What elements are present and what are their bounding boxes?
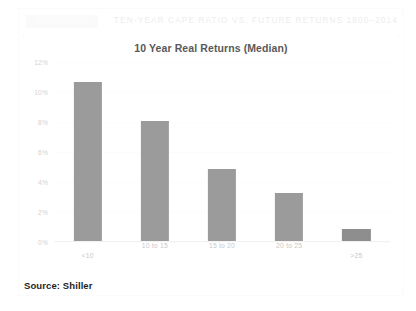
x-axis-baseline (54, 241, 390, 242)
chart-card: 10 Year Real Returns (Median) 0%2%4%6%8%… (24, 36, 398, 268)
brand-logo: BUSINESS (26, 15, 98, 28)
y-axis-tick-label: 10% (34, 89, 48, 96)
y-axis-tick-label: 12% (34, 59, 48, 66)
bar-slot: 15 to 20 (188, 62, 255, 242)
x-axis-tick-label: 15 to 20 (209, 242, 235, 249)
y-axis-tick-label: 2% (38, 209, 48, 216)
y-axis-tick-label: 6% (38, 149, 48, 156)
x-axis-tick-label: >25 (350, 252, 362, 259)
bar-slot: 10 to 15 (121, 62, 188, 242)
plot-area: 0%2%4%6%8%10%12% <1010 to 1515 to 2020 t… (54, 62, 390, 242)
y-axis-tick-label: 8% (38, 119, 48, 126)
y-axis-tick-label: 4% (38, 179, 48, 186)
bar-slot: 20 to 25 (256, 62, 323, 242)
bar (208, 169, 236, 243)
bar-slot: <10 (54, 62, 121, 242)
masthead: BUSINESS TEN-YEAR CAPE RATIO VS. FUTURE … (18, 12, 404, 38)
source-note: Source: Shiller (24, 280, 93, 291)
bar-slot: >25 (323, 62, 390, 242)
bar (73, 82, 101, 243)
x-axis-tick-label: 10 to 15 (142, 242, 168, 249)
chart-title: 10 Year Real Returns (Median) (24, 42, 398, 54)
masthead-title: TEN-YEAR CAPE RATIO VS. FUTURE RETURNS 1… (114, 16, 398, 25)
y-axis-tick-label: 0% (38, 239, 48, 246)
x-axis-tick-label: 20 to 25 (276, 242, 302, 249)
x-axis-tick-label: <10 (82, 252, 94, 259)
bar (342, 229, 370, 243)
screenshot-root: BUSINESS TEN-YEAR CAPE RATIO VS. FUTURE … (0, 0, 416, 311)
bar (275, 193, 303, 243)
bar (141, 121, 169, 243)
bar-series: <1010 to 1515 to 2020 to 25>25 (54, 62, 390, 242)
